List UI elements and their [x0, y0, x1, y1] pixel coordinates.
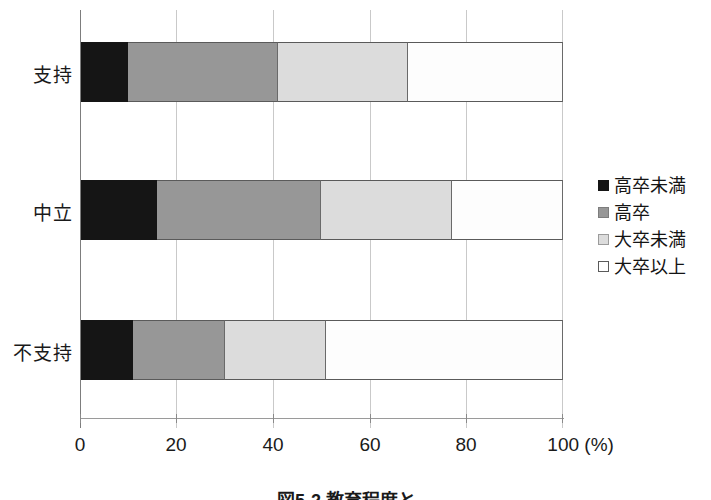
legend-item-3[interactable]: 大卒以上	[598, 253, 711, 280]
bar-segment-support-3	[408, 42, 563, 102]
bar-segment-support-0	[80, 42, 128, 102]
x-tick-label-40: 40	[262, 434, 283, 456]
y-axis-labels: 支持 中立 不支持	[0, 0, 73, 500]
x-tick-label-60: 60	[359, 434, 380, 456]
x-tick-label-20: 20	[165, 434, 186, 456]
bar-segment-support-1	[128, 42, 278, 102]
x-tick-label-100: 100 (%)	[547, 434, 614, 456]
legend-swatch-icon	[598, 180, 609, 191]
x-tick-mark-60	[370, 414, 371, 423]
bar-segment-oppose-1	[133, 320, 225, 380]
bar-track	[80, 180, 563, 240]
bar-segment-neutral-0	[80, 180, 157, 240]
legend-swatch-icon	[598, 207, 609, 218]
legend-item-label: 高卒未満	[614, 177, 686, 195]
legend-swatch-icon	[598, 261, 609, 272]
y-tick-label-oppose: 不支持	[1, 338, 73, 365]
bar-segment-neutral-1	[157, 180, 321, 240]
legend-item-1[interactable]: 高卒	[598, 199, 711, 226]
y-axis-line	[80, 10, 81, 428]
x-tick-mark-100	[562, 414, 563, 423]
bar-segment-oppose-2	[225, 320, 326, 380]
bar-segment-oppose-3	[326, 320, 563, 380]
bar-segment-oppose-0	[80, 320, 133, 380]
legend-item-label: 大卒未満	[614, 231, 686, 249]
x-tick-mark-40	[273, 414, 274, 423]
bar-row-support	[80, 42, 563, 102]
bar-segment-support-2	[278, 42, 408, 102]
plot-area	[80, 10, 563, 428]
x-tick-mark-80	[466, 414, 467, 423]
legend-swatch-icon	[598, 234, 609, 245]
y-tick-label-support: 支持	[1, 60, 73, 87]
bar-track	[80, 42, 563, 102]
x-axis-line	[80, 418, 564, 419]
legend: 高卒未満 高卒 大卒未満 大卒以上	[598, 172, 711, 280]
bar-segment-neutral-3	[452, 180, 563, 240]
bar-segment-neutral-2	[321, 180, 451, 240]
legend-item-0[interactable]: 高卒未満	[598, 172, 711, 199]
bar-track	[80, 320, 563, 380]
x-tick-label-80: 80	[455, 434, 476, 456]
bar-row-oppose	[80, 320, 563, 380]
bar-row-neutral	[80, 180, 563, 240]
x-tick-label-0: 0	[75, 434, 86, 456]
x-tick-mark-0	[80, 414, 81, 423]
x-tick-mark-20	[176, 414, 177, 423]
y-tick-label-neutral: 中立	[1, 198, 73, 225]
figure-container: 支持 中立 不支持 0 20 40 60 80 100 (%) 高卒未満 高卒 …	[0, 0, 711, 500]
figure-caption: 図5-2 教育程度と…	[0, 486, 711, 500]
legend-item-label: 大卒以上	[614, 258, 686, 276]
legend-item-label: 高卒	[614, 204, 650, 222]
legend-item-2[interactable]: 大卒未満	[598, 226, 711, 253]
